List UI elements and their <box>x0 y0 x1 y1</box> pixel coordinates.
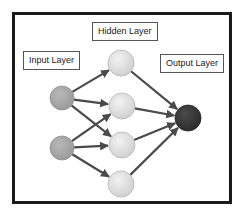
edge-i1-h2 <box>74 100 108 105</box>
edge-i2-h3 <box>74 146 108 148</box>
input-node-i1 <box>50 86 74 110</box>
hidden-layer-label: Hidden Layer <box>92 22 158 41</box>
hidden-node-h4 <box>108 171 134 197</box>
output-node-o1 <box>175 105 201 131</box>
hidden-node-h3 <box>109 132 135 158</box>
output-layer-label: Output Layer <box>160 54 224 73</box>
edge-i2-h4 <box>72 154 109 176</box>
edge-i1-h3 <box>71 105 111 136</box>
edges-group <box>71 70 178 177</box>
edge-i1-h1 <box>72 70 109 92</box>
edge-i2-h2 <box>72 114 111 141</box>
edge-h1-o1 <box>131 71 177 109</box>
hidden-node-h2 <box>109 93 135 119</box>
edge-h4-o1 <box>130 128 178 175</box>
hidden-node-h1 <box>108 50 134 76</box>
edge-h2-o1 <box>135 108 174 115</box>
input-layer-label: Input Layer <box>23 51 80 70</box>
input-node-i2 <box>50 136 74 160</box>
